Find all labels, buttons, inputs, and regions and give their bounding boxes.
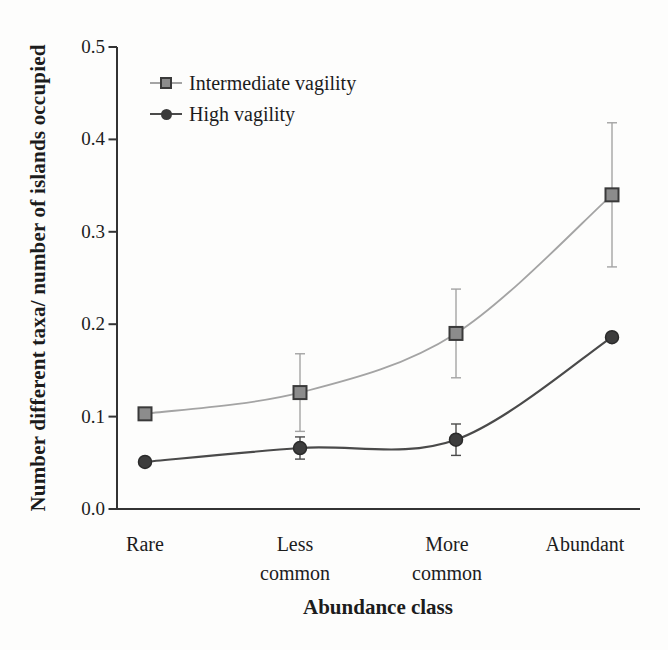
legend-label: Intermediate vagility xyxy=(189,71,356,95)
data-point-square xyxy=(450,327,463,340)
data-point-circle xyxy=(294,442,307,455)
data-point-square xyxy=(294,386,307,399)
data-point-circle xyxy=(139,455,152,468)
data-point-circle xyxy=(450,433,463,446)
legend-item-intermediate-vagility: Intermediate vagility xyxy=(150,71,356,95)
figure: Number different taxa/ number of islands… xyxy=(0,0,668,650)
y-tick-label: 0.4 xyxy=(55,128,105,150)
series-line xyxy=(145,195,612,414)
x-category-label: Rare xyxy=(100,530,190,559)
series-line xyxy=(145,337,612,462)
data-point-square xyxy=(139,407,152,420)
x-category-label: Abundant xyxy=(540,530,630,559)
legend-item-high-vagility: High vagility xyxy=(150,102,356,126)
legend: Intermediate vagility High vagility xyxy=(150,71,356,126)
x-category-label: Less common xyxy=(250,530,340,588)
y-tick-label: 0.0 xyxy=(55,498,105,520)
y-axis-title: Number different taxa/ number of islands… xyxy=(24,28,52,528)
data-point-square xyxy=(606,188,619,201)
y-tick-label: 0.1 xyxy=(55,406,105,428)
data-point-circle xyxy=(606,331,619,344)
y-tick-label: 0.5 xyxy=(55,36,105,58)
circle-marker-icon xyxy=(150,106,182,122)
y-tick-label: 0.3 xyxy=(55,221,105,243)
y-tick-label: 0.2 xyxy=(55,313,105,335)
x-axis-title: Abundance class xyxy=(278,594,478,620)
square-marker-icon xyxy=(150,75,182,91)
x-category-label: More common xyxy=(402,530,492,588)
legend-label: High vagility xyxy=(189,102,295,126)
